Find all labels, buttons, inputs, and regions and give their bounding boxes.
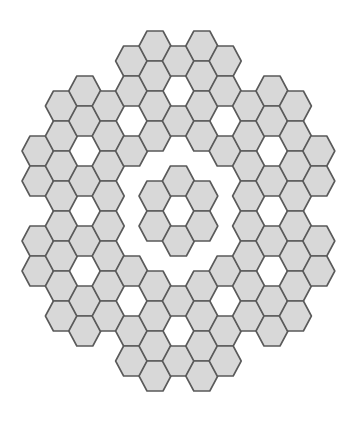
hex-tile — [303, 166, 335, 196]
hex-tile — [186, 181, 218, 211]
hex-tile — [92, 181, 124, 211]
hex-pattern-figure — [0, 0, 357, 422]
hex-tile — [303, 136, 335, 166]
hex-tile — [209, 346, 241, 376]
hex-tile-layer — [22, 31, 335, 391]
hex-tile — [303, 226, 335, 256]
hex-tile — [303, 256, 335, 286]
hex-tile — [279, 91, 311, 121]
hex-tile — [279, 301, 311, 331]
hex-tile — [209, 46, 241, 76]
hex-tile — [92, 211, 124, 241]
hex-tile — [186, 211, 218, 241]
